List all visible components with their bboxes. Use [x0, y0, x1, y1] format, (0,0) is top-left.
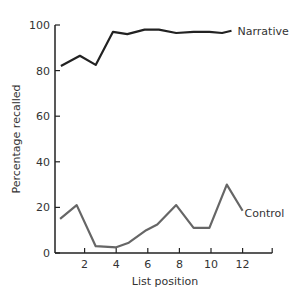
y-tick-label: 40 [36, 156, 50, 169]
x-tick-label: 4 [113, 258, 120, 271]
control-line [60, 185, 243, 248]
narrative-line [61, 30, 232, 66]
x-axis: 24681012 [55, 248, 272, 271]
y-tick-label: 80 [36, 65, 50, 78]
x-tick-label: 2 [81, 258, 88, 271]
narrative-series-label: Narrative [238, 25, 289, 38]
y-axis-label: Percentage recalled [10, 84, 23, 193]
x-tick-label: 12 [236, 258, 250, 271]
y-tick-label: 100 [29, 19, 50, 32]
x-tick-label: 10 [204, 258, 218, 271]
x-tick-label: 8 [176, 258, 183, 271]
y-tick-label: 0 [43, 247, 50, 260]
y-tick-label: 20 [36, 201, 50, 214]
line-chart: 020406080100 24681012 NarrativeControl P… [0, 0, 295, 300]
x-axis-label: List position [132, 275, 198, 288]
y-axis: 020406080100 [29, 19, 60, 260]
control-series-label: Control [245, 207, 285, 220]
series-lines: NarrativeControl [60, 25, 289, 248]
y-tick-label: 60 [36, 110, 50, 123]
x-tick-label: 6 [144, 258, 151, 271]
